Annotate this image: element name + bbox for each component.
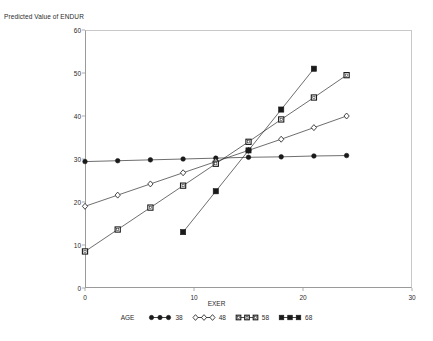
- filled-circle-marker: [148, 313, 172, 322]
- legend-entry-38: 38: [148, 313, 182, 322]
- filled-circle-marker: [246, 155, 251, 160]
- open-diamond-marker: [115, 192, 120, 198]
- filled-circle-marker: [279, 155, 284, 160]
- open-diamond-marker: [344, 113, 349, 119]
- open-square-marker: [115, 227, 120, 232]
- data-series-layer: [82, 66, 349, 254]
- data-series-58: [82, 73, 349, 255]
- data-series-68: [181, 66, 317, 235]
- filled-square-marker: [311, 66, 316, 71]
- legend-value: 38: [175, 314, 182, 321]
- open-square-marker: [235, 313, 259, 322]
- legend-entry-48: 48: [192, 313, 226, 322]
- open-square-marker: [344, 73, 349, 78]
- filled-square-marker: [296, 315, 301, 320]
- y-tick-label: 30: [58, 156, 81, 163]
- filled-square-marker: [288, 315, 293, 320]
- open-square-marker: [213, 161, 218, 166]
- open-square-marker: [236, 315, 241, 320]
- open-square-marker: [82, 249, 87, 254]
- legend-entry-68: 68: [278, 313, 312, 322]
- y-tick-label: 10: [58, 242, 81, 249]
- open-square-marker: [245, 315, 250, 320]
- filled-circle-marker: [312, 154, 317, 159]
- filled-circle-marker: [150, 315, 154, 319]
- y-tick-label: 0: [58, 285, 81, 292]
- filled-square-marker: [279, 315, 284, 320]
- filled-circle-marker: [344, 153, 349, 158]
- filled-circle-marker: [181, 157, 186, 162]
- legend-value: 58: [262, 314, 269, 321]
- y-tick-label: 50: [58, 70, 81, 77]
- open-diamond-marker: [210, 315, 215, 321]
- chart-legend: AGE 38485868: [0, 313, 433, 322]
- filled-circle-marker: [158, 315, 162, 319]
- open-square-marker: [311, 95, 316, 100]
- open-diamond-marker: [192, 313, 216, 322]
- filled-circle-marker: [115, 158, 120, 163]
- filled-circle-marker: [83, 159, 88, 164]
- y-tick-label: 20: [58, 199, 81, 206]
- chart-figure: Predicted Value of ENDUR 0102030405060 0…: [0, 0, 433, 341]
- open-square-marker: [148, 205, 153, 210]
- open-diamond-marker: [148, 181, 153, 187]
- open-square-marker: [246, 139, 251, 144]
- open-diamond-marker: [193, 315, 198, 321]
- legend-entry-58: 58: [235, 313, 269, 322]
- filled-square-marker: [278, 313, 302, 322]
- legend-title: AGE: [121, 314, 135, 321]
- filled-circle-marker: [167, 315, 171, 319]
- legend-value: 68: [305, 314, 312, 321]
- open-square-marker: [253, 315, 258, 320]
- open-diamond-marker: [201, 315, 206, 321]
- y-tick-label: 60: [58, 27, 81, 34]
- filled-circle-marker: [148, 158, 153, 163]
- open-diamond-marker: [279, 136, 284, 142]
- filled-square-marker: [246, 148, 251, 153]
- filled-square-marker: [181, 230, 186, 235]
- legend-value: 48: [219, 314, 226, 321]
- open-square-marker: [279, 117, 284, 122]
- filled-square-marker: [279, 107, 284, 112]
- filled-square-marker: [213, 189, 218, 194]
- open-diamond-marker: [82, 203, 87, 209]
- open-square-marker: [181, 183, 186, 188]
- open-diamond-marker: [180, 170, 185, 176]
- y-tick-label: 40: [58, 113, 81, 120]
- open-diamond-marker: [311, 125, 316, 131]
- x-axis-title: EXER: [0, 300, 433, 307]
